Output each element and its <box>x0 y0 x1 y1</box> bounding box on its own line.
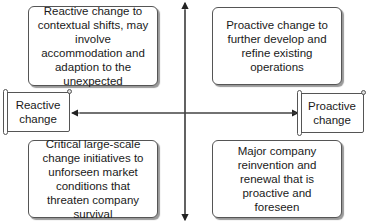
proactive-change-label: Proactive change <box>300 93 364 133</box>
quadrant-top-right-text: Proactive change to further develop and … <box>219 18 335 74</box>
reactive-change-text: Reactive change <box>13 98 63 126</box>
quadrant-bottom-left-text: Critical large-scale change initiatives … <box>35 137 151 221</box>
quadrant-bottom-left: Critical large-scale change initiatives … <box>28 140 158 218</box>
quadrant-top-left-text: Reactive change to contextual shifts, ma… <box>35 4 151 88</box>
quadrant-bottom-right: Major company reinvention and renewal th… <box>212 140 342 218</box>
reactive-change-label: Reactive change <box>6 92 70 132</box>
quadrant-top-left: Reactive change to contextual shifts, ma… <box>28 6 158 86</box>
quadrant-top-right: Proactive change to further develop and … <box>212 7 342 85</box>
proactive-change-text: Proactive change <box>304 99 360 127</box>
quadrant-bottom-right-text: Major company reinvention and renewal th… <box>219 144 335 214</box>
